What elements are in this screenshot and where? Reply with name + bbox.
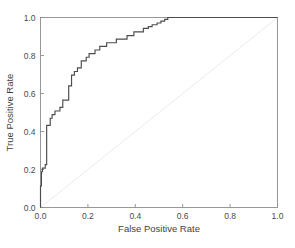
x-tick-label: 0.4 [129,211,141,221]
caption-ghost-text [0,236,295,247]
y-tick-label: 0.6 [24,89,36,99]
y-tick-label: 0.4 [24,127,36,137]
x-tick-label: 0.6 [177,211,189,221]
y-tick-label: 0.8 [24,51,36,61]
y-tick-label: 1.0 [24,13,36,23]
chance-diagonal-line [41,18,278,208]
x-axis-title: False Positive Rate [118,223,200,234]
roc-chart-svg: 0.00.20.40.60.81.00.00.20.40.60.81.0Fals… [0,0,295,248]
x-tick-label: 1.0 [272,211,284,221]
x-tick-label: 0.0 [35,211,47,221]
y-tick-label: 0.0 [24,203,36,213]
x-tick-label: 0.2 [82,211,94,221]
roc-chart-figure: 0.00.20.40.60.81.00.00.20.40.60.81.0Fals… [0,0,295,248]
y-axis-title: True Positive Rate [4,74,15,152]
y-tick-label: 0.2 [24,165,36,175]
x-tick-label: 0.8 [224,211,236,221]
